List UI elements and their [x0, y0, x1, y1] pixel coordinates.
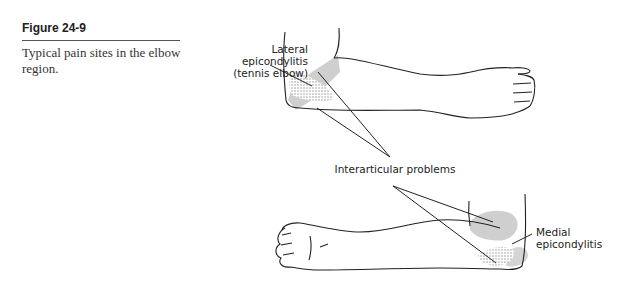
label-lateral-epicondylitis: Lateral epicondylitis (tennis elbow) — [200, 43, 308, 79]
top-arm — [284, 28, 535, 118]
label-lateral-line1: Lateral — [200, 43, 308, 55]
label-medial-line2: epicondylitis — [536, 238, 602, 250]
label-medial-epicondylitis: Medial epicondylitis — [536, 226, 602, 250]
label-interarticular-problems: Interarticular problems — [320, 163, 470, 175]
label-medial-line1: Medial — [536, 226, 602, 238]
label-lateral-line3: (tennis elbow) — [200, 67, 308, 79]
label-lateral-line2: epicondylitis — [200, 55, 308, 67]
